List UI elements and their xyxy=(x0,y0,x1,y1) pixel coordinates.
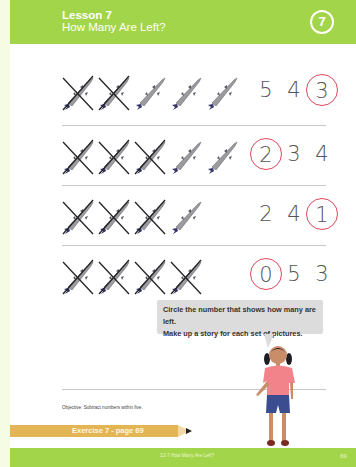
fish-icon-crossed xyxy=(168,256,204,296)
exercise-pencil-banner[interactable]: Exercise 7 - page 69 xyxy=(10,425,180,437)
answer-option-circled[interactable]: 3 xyxy=(306,74,338,106)
lesson-title: How Many Are Left? xyxy=(62,21,166,33)
left-margin-strip xyxy=(0,0,10,467)
lesson-number-badge: 7 xyxy=(310,10,334,34)
instruction-line-1: Circle the number that shows how many ar… xyxy=(163,304,317,328)
exercise-row-2: 2 3 4 xyxy=(60,126,325,186)
fish-icon xyxy=(168,136,204,176)
girl-illustration xyxy=(255,343,310,450)
fish-icon-crossed xyxy=(60,136,96,176)
lesson-label: Lesson 7 xyxy=(62,9,112,21)
fish-icon-crossed xyxy=(96,136,132,176)
exercise-row-1: 5 4 3 xyxy=(60,62,325,122)
fish-icon xyxy=(204,136,240,176)
objective-text: Objective: Subtract numbers within five. xyxy=(62,405,143,410)
fish-icon-crossed xyxy=(132,196,168,236)
fish-icon-crossed xyxy=(132,136,168,176)
answer-option[interactable]: 3 xyxy=(306,258,338,290)
fish-icon xyxy=(168,72,204,112)
exercise-reference: Exercise 7 - page 69 xyxy=(72,426,144,436)
fish-icon xyxy=(132,72,168,112)
fish-icon-crossed xyxy=(60,196,96,236)
lesson-header: Lesson 7 How Many Are Left? 7 xyxy=(10,0,356,44)
page-number: 69 xyxy=(340,453,347,459)
fish-icon-crossed xyxy=(96,196,132,236)
fish-icon xyxy=(204,72,240,112)
answer-option-circled[interactable]: 1 xyxy=(306,198,338,230)
exercise-row-4: 0 5 3 xyxy=(60,246,325,306)
fish-icon xyxy=(168,196,204,236)
fish-icon-crossed xyxy=(60,256,96,296)
answer-option[interactable]: 4 xyxy=(306,138,338,170)
exercise-row-3: 2 4 1 xyxy=(60,186,325,246)
footer-title: 12-7 How Many Are Left? xyxy=(160,453,214,458)
fish-icon-crossed xyxy=(132,256,168,296)
fish-icon-crossed xyxy=(60,72,96,112)
pencil-lead xyxy=(186,428,192,434)
page-footer: 12-7 How Many Are Left? 69 xyxy=(10,448,356,467)
instruction-line-2: Make up a story for each set of pictures… xyxy=(163,328,317,340)
instruction-speech-bubble: Circle the number that shows how many ar… xyxy=(157,300,323,334)
fish-icon-crossed xyxy=(96,256,132,296)
fish-icon-crossed xyxy=(96,72,132,112)
